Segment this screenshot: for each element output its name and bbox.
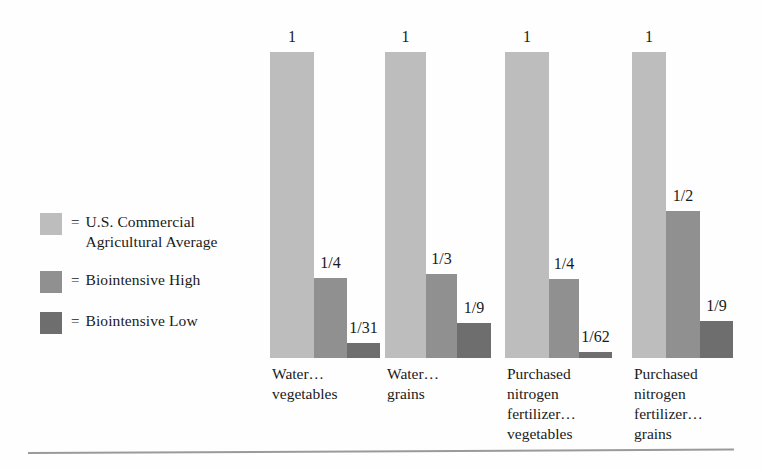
bar[interactable]	[505, 52, 549, 358]
category-label: Water… grains	[387, 364, 507, 404]
bar-column[interactable]: 1/9	[700, 52, 733, 358]
bar-group-bars: 11/31/9	[385, 52, 491, 358]
bar-column[interactable]: 1	[270, 52, 314, 358]
bar-group-bars: 11/21/9	[632, 52, 733, 358]
bar[interactable]	[314, 278, 347, 358]
bar-value-label: 1/9	[464, 300, 484, 316]
bar-column[interactable]: 1/9	[457, 52, 491, 358]
bar-value-label: 1/3	[431, 251, 451, 267]
category-label: Purchased nitrogen fertilizer… grains	[634, 364, 754, 444]
bar-group-bars: 11/41/31	[270, 52, 380, 358]
bar[interactable]	[347, 343, 380, 358]
bar-value-label: 1/31	[349, 320, 377, 336]
bar[interactable]	[700, 321, 733, 358]
bar-column[interactable]: 1	[632, 52, 666, 358]
bar-value-label: 1	[288, 29, 296, 45]
bar[interactable]	[549, 279, 579, 358]
bar-value-label: 1	[523, 29, 531, 45]
bar[interactable]	[666, 211, 700, 358]
bar-chart-figure: = U.S. Commercial Agricultural Average =…	[0, 0, 762, 469]
bar[interactable]	[632, 52, 666, 358]
bar-column[interactable]: 1/62	[579, 52, 612, 358]
bar-column[interactable]: 1/4	[314, 52, 347, 358]
category-label: Purchased nitrogen fertilizer… vegetable…	[507, 364, 627, 444]
bar[interactable]	[457, 323, 491, 358]
bar-group-bars: 11/41/62	[505, 52, 612, 358]
bar[interactable]	[426, 274, 457, 358]
bar-column[interactable]: 1	[385, 52, 426, 358]
bar-column[interactable]: 1/2	[666, 52, 700, 358]
bar-value-label: 1/62	[581, 329, 609, 345]
plot-area: 11/41/31Water… vegetables11/31/9Water… g…	[0, 0, 762, 469]
bar-value-label: 1/4	[320, 255, 340, 271]
bar[interactable]	[579, 352, 612, 358]
bar[interactable]	[270, 52, 314, 358]
bar-column[interactable]: 1	[505, 52, 549, 358]
bar-value-label: 1/2	[673, 188, 693, 204]
bar-value-label: 1	[645, 29, 653, 45]
bar-column[interactable]: 1/4	[549, 52, 579, 358]
bar-value-label: 1	[402, 29, 410, 45]
bar-column[interactable]: 1/31	[347, 52, 380, 358]
bar[interactable]	[385, 52, 426, 358]
category-label: Water… vegetables	[272, 364, 392, 404]
bar-column[interactable]: 1/3	[426, 52, 457, 358]
bar-value-label: 1/9	[706, 298, 726, 314]
bar-value-label: 1/4	[554, 256, 574, 272]
